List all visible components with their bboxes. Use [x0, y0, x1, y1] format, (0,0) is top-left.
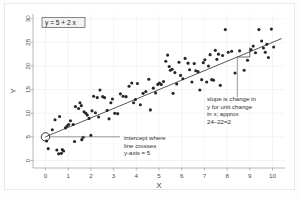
data-point — [98, 89, 101, 92]
data-point — [136, 82, 139, 85]
data-point — [144, 90, 147, 93]
data-point — [67, 123, 70, 126]
data-point — [238, 49, 241, 52]
data-point — [116, 112, 119, 115]
figure-container: 012345678910 051015202530 X Y y = 5 + 2 … — [0, 0, 299, 201]
y-tick-label: 0 — [24, 158, 31, 162]
data-point — [111, 97, 114, 100]
data-point — [243, 69, 246, 72]
data-point — [60, 152, 63, 155]
data-point — [69, 119, 72, 122]
data-point — [74, 105, 77, 108]
data-point — [57, 152, 60, 155]
data-point — [188, 68, 191, 71]
data-point — [47, 147, 50, 150]
data-point — [119, 92, 122, 95]
x-tick-label: 7 — [203, 172, 207, 179]
data-point — [173, 71, 176, 74]
data-point — [184, 57, 187, 60]
data-point — [177, 61, 180, 64]
data-point — [122, 95, 125, 98]
data-point — [214, 49, 217, 52]
data-point — [202, 61, 205, 64]
slope-annotation-line3: in x; approx — [207, 110, 239, 117]
data-point — [152, 87, 155, 90]
data-point — [179, 74, 182, 77]
data-point — [130, 81, 133, 84]
data-point — [264, 51, 267, 54]
data-point — [168, 65, 171, 68]
data-point — [90, 109, 93, 112]
data-point — [200, 78, 203, 81]
data-point — [77, 107, 80, 110]
data-point — [203, 58, 206, 61]
data-point — [58, 115, 61, 118]
data-point — [142, 92, 145, 95]
data-point — [267, 56, 270, 59]
data-point — [94, 111, 97, 114]
intercept-annotation-line2: line crosses — [124, 142, 156, 149]
regression-line — [45, 39, 281, 137]
data-point — [109, 101, 112, 104]
data-point — [187, 62, 190, 65]
data-point — [227, 51, 230, 54]
data-point — [132, 101, 135, 104]
data-point — [254, 51, 257, 54]
data-point — [125, 95, 128, 98]
data-point — [97, 115, 100, 118]
data-point — [207, 64, 210, 67]
data-point — [147, 78, 150, 81]
data-point — [270, 28, 273, 31]
data-point — [149, 108, 152, 111]
slope-annotation-line4: 24–22=2 — [207, 118, 232, 125]
y-tick-label: 15 — [24, 86, 31, 93]
data-point — [217, 53, 220, 56]
slope-annotation-line2: y for unit change — [207, 103, 253, 110]
data-point — [171, 68, 174, 71]
data-point — [62, 149, 65, 152]
data-point — [172, 92, 175, 95]
data-point — [272, 46, 275, 49]
data-point — [92, 95, 95, 98]
data-point — [260, 39, 263, 42]
data-point — [108, 117, 111, 120]
y-tick-label: 10 — [24, 109, 31, 116]
data-point — [193, 62, 196, 65]
data-point — [73, 140, 76, 143]
x-tick-label: 3 — [112, 172, 116, 179]
data-point — [212, 79, 215, 82]
data-point — [215, 58, 218, 61]
data-point — [127, 85, 130, 88]
data-point — [80, 104, 83, 107]
intercept-annotation-line1: intercept where — [124, 134, 166, 141]
data-point — [257, 28, 260, 31]
gridlines — [33, 14, 285, 168]
x-tick-label: 0 — [44, 172, 48, 179]
y-axis-title: Y — [9, 88, 18, 93]
data-point — [246, 59, 249, 62]
data-point — [164, 60, 167, 63]
y-tick-label: 20 — [24, 62, 31, 69]
x-tick-label: 8 — [225, 172, 229, 179]
data-point — [78, 101, 81, 104]
data-point — [209, 53, 212, 56]
y-tick-label: 5 — [24, 135, 31, 139]
data-point — [53, 118, 56, 121]
data-point — [96, 96, 99, 99]
data-point — [224, 28, 227, 31]
data-point — [160, 83, 163, 86]
scatter-chart: 012345678910 051015202530 X Y y = 5 + 2 … — [0, 0, 299, 201]
x-tick-label: 10 — [269, 172, 276, 179]
data-point — [51, 128, 54, 131]
equation-label: y = 5 + 2 x — [45, 19, 76, 27]
data-point — [190, 80, 193, 83]
x-tick-label: 2 — [89, 172, 93, 179]
data-point — [82, 136, 85, 139]
y-tick-labels: 051015202530 — [24, 15, 31, 162]
data-point — [86, 114, 89, 117]
intercept-annotation-line3: y-axis = 5 — [124, 149, 151, 156]
x-tick-labels: 012345678910 — [44, 172, 277, 179]
data-point — [221, 54, 224, 57]
slope-annotation-line1: slope is change in — [207, 95, 256, 102]
data-point — [162, 80, 165, 83]
